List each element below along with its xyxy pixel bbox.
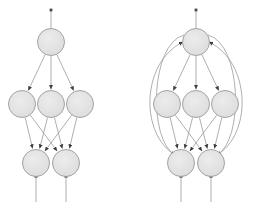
edge-R-top-1-to-R-mid-1 — [173, 55, 190, 91]
edge-L-mid-3-to-L-bot-2 — [69, 118, 76, 149]
node-circle — [198, 150, 225, 177]
node-circle — [23, 150, 50, 177]
node-R-bot-1[interactable] — [168, 150, 195, 177]
node-circle — [183, 29, 210, 56]
node-circle — [38, 91, 65, 118]
edge-L-mid-2-to-L-bot-1 — [40, 118, 48, 149]
node-R-bot-2[interactable] — [198, 150, 225, 177]
node-circle — [67, 91, 94, 118]
edge-R-mid-2-to-R-bot-1 — [185, 118, 193, 149]
edge-R-mid-1-to-R-bot-1 — [170, 118, 177, 149]
node-R-mid-1[interactable] — [154, 91, 181, 118]
nodes-layer — [9, 29, 239, 177]
edge-L-top-1-to-L-mid-3 — [57, 55, 74, 91]
node-circle — [212, 91, 239, 118]
node-L-bot-1[interactable] — [23, 150, 50, 177]
node-L-mid-3[interactable] — [67, 91, 94, 118]
edge-R-top-1-to-R-mid-3 — [202, 55, 219, 91]
node-R-top-1[interactable] — [183, 29, 210, 56]
node-R-mid-3[interactable] — [212, 91, 239, 118]
edge-L-mid-3-to-L-bot-1 — [45, 115, 72, 151]
node-R-mid-2[interactable] — [183, 91, 210, 118]
node-L-bot-2[interactable] — [53, 150, 80, 177]
figure-canvas — [0, 0, 262, 208]
node-circle — [38, 29, 65, 56]
edge-R-mid-3-to-R-bot-1 — [190, 115, 217, 151]
node-circle — [168, 150, 195, 177]
node-circle — [154, 91, 181, 118]
node-L-top-1[interactable] — [38, 29, 65, 56]
edge-L-top-1-to-L-mid-1 — [28, 55, 45, 91]
edge-R-mid-3-to-R-bot-2 — [214, 118, 221, 149]
edge-L-mid-1-to-L-bot-1 — [25, 118, 32, 149]
node-circle — [9, 91, 36, 118]
node-circle — [53, 150, 80, 177]
node-L-mid-1[interactable] — [9, 91, 36, 118]
network-diagram-svg — [0, 0, 262, 208]
node-L-mid-2[interactable] — [38, 91, 65, 118]
node-circle — [183, 91, 210, 118]
